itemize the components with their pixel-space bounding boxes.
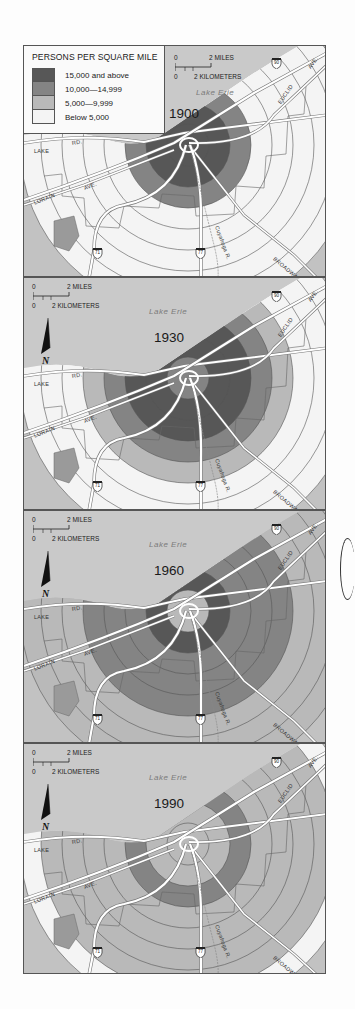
legend-item: Below 5,000 [32,110,164,124]
scale-bar-graphic [175,63,215,71]
lake-erie-label: Lake Erie [149,307,187,316]
map-panel-1960: 1960 0 2 MILES 0 2 KILOMETERSLake Erie N… [23,510,326,743]
scale-km-zero: 0 [32,302,36,309]
interstate-number: 71 [92,483,103,488]
interstate-number: 90 [271,293,282,298]
scale-km-zero: 0 [32,768,36,775]
interstate-shield-icon: 71 [92,946,103,958]
interstate-shield-icon: 90 [271,756,282,768]
interstate-shield-icon: 77 [195,247,206,259]
scale-miles-zero: 0 [174,54,178,61]
interstate-shield-icon: 90 [271,57,282,69]
year-label: 1960 [154,563,184,578]
lake-erie-label: Lake Erie [149,540,187,549]
map-panel-1930: 1930 0 2 MILES 0 2 KILOMETERSLake Erie N… [23,277,326,510]
scale-km-zero: 0 [32,535,36,542]
north-arrow-icon: N [38,318,58,368]
legend: PERSONS PER SQUARE MILE 15,000 and above… [24,46,165,134]
year-label: 1990 [154,796,184,811]
interstate-shield-icon: 90 [271,290,282,302]
scale-miles-zero: 0 [32,283,36,290]
scale-miles-label: 2 MILES [67,283,92,290]
legend-swatch [32,68,55,82]
interstate-shield-icon: 90 [271,523,282,535]
north-label: N [42,821,49,832]
scale-km-label: 2 KILOMETERS [52,768,99,775]
legend-item: 10,000—14,999 [32,82,164,96]
legend-label: 15,000 and above [65,71,129,80]
scale-miles-label: 2 MILES [67,516,92,523]
interstate-number: 90 [271,759,282,764]
interstate-shield-icon: 71 [92,247,103,259]
interstate-number: 71 [92,250,103,255]
interstate-number: 90 [271,60,282,65]
interstate-shield-icon: 77 [195,946,206,958]
interstate-number: 71 [92,949,103,954]
scale-bar-graphic [33,292,73,300]
interstate-shield-icon: 77 [195,713,206,725]
map-panel-1900: 1900 0 2 MILES 0 2 KILOMETERSLake ErieLA… [23,45,326,277]
scale-km-label: 2 KILOMETERS [194,73,241,80]
road-label-lake-rd_1: LAKE [34,614,49,620]
legend-swatch [32,96,55,110]
lake-erie-label: Lake Erie [196,88,234,97]
legend-swatch [32,82,55,96]
legend-item: 5,000—9,999 [32,96,164,110]
scale-miles-zero: 0 [32,516,36,523]
map-panel-1990: 1990 0 2 MILES 0 2 KILOMETERSLake Erie N… [23,743,326,974]
legend-label: Below 5,000 [65,113,109,122]
scale-miles-label: 2 MILES [209,54,234,61]
year-label: 1900 [169,106,199,121]
scale-miles-zero: 0 [32,749,36,756]
scale-km-zero: 0 [174,73,178,80]
scale-bar-graphic [33,758,73,766]
lake-erie-label: Lake Erie [149,773,187,782]
interstate-number: 77 [195,483,206,488]
scale-km-label: 2 KILOMETERS [52,302,99,309]
north-arrow-icon: N [38,784,58,834]
interstate-shield-icon: 71 [92,480,103,492]
road-label-lake-rd_1: LAKE [34,381,49,387]
legend-title: PERSONS PER SQUARE MILE [32,52,164,62]
scale-miles-label: 2 MILES [67,749,92,756]
margin-bracket-mark [340,538,355,600]
legend-label: 10,000—14,999 [65,85,122,94]
road-label-lake-rd_1: LAKE [34,148,49,154]
year-label: 1930 [154,330,184,345]
legend-swatch [32,110,55,124]
interstate-number: 77 [195,250,206,255]
legend-item: 15,000 and above [32,68,164,82]
interstate-shield-icon: 71 [92,713,103,725]
scale-km-label: 2 KILOMETERS [52,535,99,542]
interstate-number: 77 [195,949,206,954]
interstate-number: 71 [92,716,103,721]
north-label: N [42,588,49,599]
road-label-lake-rd_1: LAKE [34,847,49,853]
north-arrow-icon: N [38,551,58,601]
interstate-number: 77 [195,716,206,721]
interstate-shield-icon: 77 [195,480,206,492]
legend-label: 5,000—9,999 [65,99,113,108]
scale-bar-graphic [33,525,73,533]
north-label: N [42,355,49,366]
interstate-number: 90 [271,526,282,531]
